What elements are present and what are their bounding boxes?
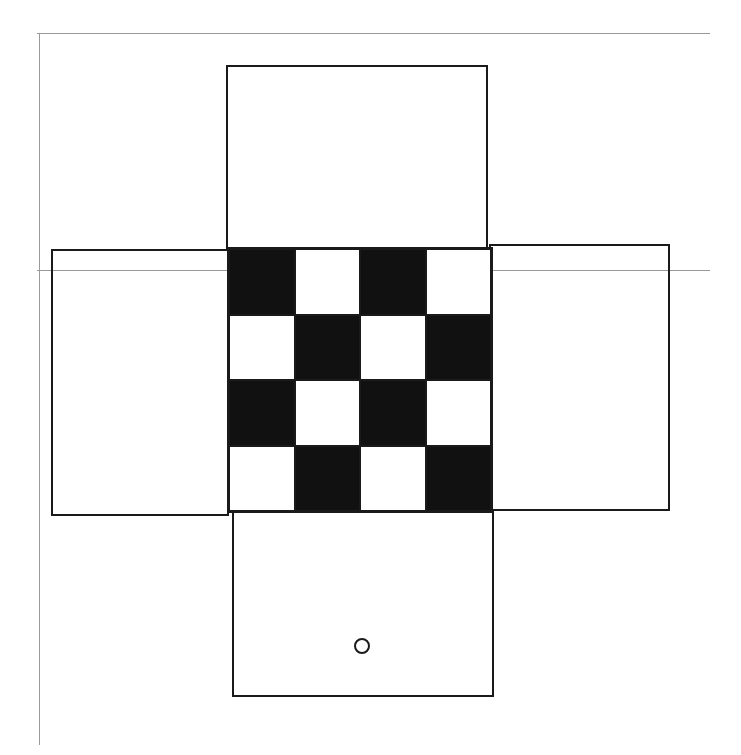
checker-cell-white — [295, 249, 361, 315]
checker-cell-black — [426, 446, 492, 512]
face-bottom — [232, 511, 494, 697]
checker-cell-white — [229, 315, 295, 381]
checker-cell-black — [360, 249, 426, 315]
checker-cell-black — [360, 380, 426, 446]
guide-line-left — [39, 33, 40, 745]
checker-cell-white — [426, 380, 492, 446]
checker-cell-white — [426, 249, 492, 315]
checker-cell-black — [295, 446, 361, 512]
checker-cell-black — [426, 315, 492, 381]
checker-cell-black — [295, 315, 361, 381]
checker-cell-black — [229, 249, 295, 315]
checker-cell-white — [295, 380, 361, 446]
face-top — [226, 65, 488, 249]
checker-cell-white — [360, 446, 426, 512]
checker-cell-white — [229, 446, 295, 512]
checkerboard-center-face — [227, 247, 493, 513]
checker-cell-black — [229, 380, 295, 446]
guide-line-top — [37, 33, 710, 34]
face-left — [51, 249, 229, 516]
circle-marker-icon — [354, 638, 370, 654]
checker-cell-white — [360, 315, 426, 381]
face-right — [489, 244, 670, 511]
